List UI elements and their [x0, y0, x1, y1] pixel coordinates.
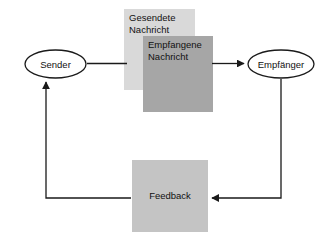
- connector-receiver-to-feedback: [212, 79, 281, 198]
- received-message-label: Empfangene Nachricht: [148, 39, 214, 63]
- sender-node[interactable]: Sender: [25, 50, 86, 78]
- receiver-node[interactable]: Empfänger: [248, 50, 314, 78]
- sent-message-label: Gesendete Nachricht: [129, 12, 195, 36]
- connector-layer: [0, 0, 322, 248]
- sender-label: Sender: [25, 59, 86, 70]
- connector-feedback-to-sender: [46, 82, 131, 198]
- feedback-label: Feedback: [132, 190, 208, 202]
- communication-model-diagram: Gesendete Nachricht Empfangene Nachricht…: [0, 0, 322, 248]
- receiver-label: Empfänger: [248, 59, 314, 70]
